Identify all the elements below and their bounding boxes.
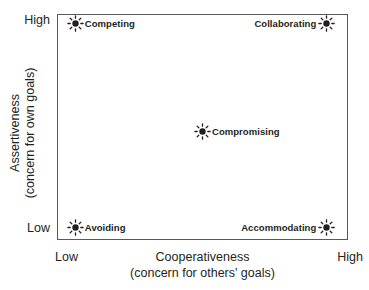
y-axis-title-line1: Assertiveness <box>8 18 23 248</box>
y-axis-title: Assertiveness (concern for own goals) <box>8 18 38 248</box>
y-axis-title-line2: (concern for own goals) <box>23 18 38 248</box>
data-point-label-accommodating: Accommodating <box>241 223 316 233</box>
data-point-competing: Competing <box>67 15 135 32</box>
data-point-label-avoiding: Avoiding <box>85 223 126 233</box>
starburst-icon <box>67 15 84 32</box>
conflict-mode-chart: High Low Assertiveness (concern for own … <box>0 0 369 290</box>
data-point-accommodating: Accommodating <box>241 219 335 236</box>
data-point-collaborating: Collaborating <box>254 15 335 32</box>
data-point-label-compromising: Compromising <box>212 127 280 137</box>
starburst-icon <box>194 123 211 140</box>
data-point-avoiding: Avoiding <box>67 219 126 236</box>
data-point-compromising: Compromising <box>194 123 280 140</box>
starburst-icon <box>318 219 335 236</box>
x-axis-title: Cooperativeness (concern for others' goa… <box>57 249 348 281</box>
data-point-label-collaborating: Collaborating <box>254 19 316 29</box>
plot-area: Competing Co <box>57 14 348 240</box>
starburst-icon <box>318 15 335 32</box>
x-axis-title-line2: (concern for others' goals) <box>57 265 348 281</box>
data-point-label-competing: Competing <box>85 19 135 29</box>
starburst-icon <box>67 219 84 236</box>
x-axis-title-line1: Cooperativeness <box>57 249 348 265</box>
